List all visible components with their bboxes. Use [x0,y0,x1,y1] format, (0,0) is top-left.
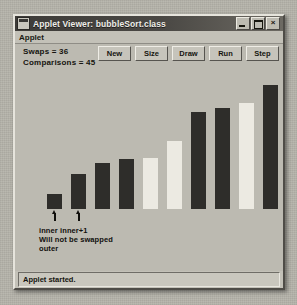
size-button[interactable]: Size [135,46,168,61]
bar-1 [71,174,86,209]
annotation-notes: inner inner+1 Will not be swapped outer [39,226,113,253]
stats-readout: Swaps = 36 Comparisons = 45 [23,47,95,68]
bar-8 [239,103,254,209]
menu-item-applet[interactable]: Applet [19,33,44,42]
applet-viewer-icon [17,17,30,30]
bar-7 [215,108,230,209]
status-bar: Applet started. [15,271,283,288]
maximize-button[interactable] [251,17,265,30]
bar-4 [143,158,158,209]
bar-3 [119,159,134,209]
step-button[interactable]: Step [246,46,279,61]
arrow-icon-inner [52,210,57,221]
bar-9 [263,85,278,209]
close-icon: × [271,18,276,27]
bar-0 [47,194,62,209]
window-title: Applet Viewer: bubbleSort.class [33,19,236,29]
title-bar[interactable]: Applet Viewer: bubbleSort.class × [15,16,283,31]
close-button[interactable]: × [266,17,280,30]
arrow-icon-inner-plus-1 [76,210,81,221]
run-button[interactable]: Run [209,46,242,61]
annotation-line-2: Will not be swapped [39,235,113,244]
minimize-button[interactable] [236,17,250,30]
annotation-line-1: inner inner+1 [39,226,113,235]
window-controls: × [236,17,280,30]
applet-button-row: New Size Draw Run Step [98,46,279,61]
bar-6 [191,112,206,209]
menu-bar: Applet [15,31,283,43]
swaps-label: Swaps = 36 [23,47,95,58]
applet-viewer-window: Applet Viewer: bubbleSort.class × Applet… [13,14,285,290]
status-text: Applet started. [18,272,280,287]
new-button[interactable]: New [98,46,131,61]
annotation-line-3: outer [39,244,113,253]
draw-button[interactable]: Draw [172,46,205,61]
bar-5 [167,141,182,209]
applet-canvas: Swaps = 36 Comparisons = 45 New Size Dra… [15,43,283,271]
bar-2 [95,163,110,209]
